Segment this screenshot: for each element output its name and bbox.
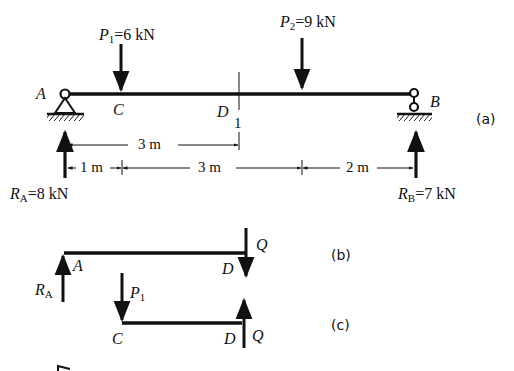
point-label-c: C [113, 102, 124, 118]
point-label-a: A [36, 86, 46, 102]
dimension-label-c-p2: 3 m [198, 160, 221, 175]
point-label-a-b: A [73, 258, 83, 274]
cropped-arrow-fragment [58, 366, 70, 371]
section-label-1: 1 [234, 116, 242, 131]
shear-label-q-b: Q [256, 237, 268, 253]
panel-tag-c: (c) [331, 318, 350, 332]
dimension-label-a-d: 3 m [138, 137, 161, 152]
load-label-p1-c: P1 [130, 285, 145, 301]
point-label-d: D [217, 104, 229, 120]
beam-free-body-diagram-figure: P1=6 kN P2=9 kN A C D 1 B (a) 3 m 1 m 3 … [0, 0, 514, 371]
panel-b [63, 228, 246, 302]
panel-tag-b: (b) [331, 248, 351, 262]
panel-tag-a: (a) [476, 112, 496, 126]
reaction-label-ra: RA=8 kN [10, 186, 68, 202]
shear-label-q-c: Q [252, 328, 264, 344]
load-label-p1: P1=6 kN [99, 27, 155, 43]
dimension-label-p2-b: 2 m [346, 160, 369, 175]
reaction-label-ra-b: RA [35, 282, 53, 298]
reaction-label-rb: RB=7 kN [398, 186, 456, 202]
dimension-label-a-c: 1 m [80, 160, 103, 175]
point-label-c-c: C [112, 331, 123, 347]
point-label-d-c: D [224, 331, 236, 347]
point-label-b: B [430, 94, 440, 110]
load-label-p2: P2=9 kN [280, 14, 336, 30]
panel-a [47, 38, 432, 178]
point-label-d-b: D [222, 261, 234, 277]
